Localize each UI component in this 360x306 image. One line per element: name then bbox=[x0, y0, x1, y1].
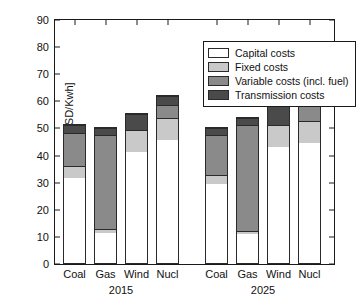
y-axis-tick-label: 20 bbox=[37, 204, 49, 215]
legend-item: Capital costs bbox=[208, 46, 349, 60]
bar-2025-nucl bbox=[298, 95, 321, 264]
bar-segment-variable bbox=[95, 135, 116, 229]
bar-2025-wind bbox=[267, 105, 290, 264]
bar-segment-capital bbox=[299, 143, 320, 263]
bar-segment-transmission bbox=[237, 118, 258, 125]
x-axis-tick-label: Coal bbox=[205, 269, 228, 280]
x-axis-group-label-2015: 2015 bbox=[109, 285, 133, 296]
x-axis-tick-label: Gas bbox=[95, 269, 115, 280]
bar-segment-transmission bbox=[64, 125, 85, 134]
legend-swatch-icon bbox=[208, 76, 229, 86]
bar-segment-capital bbox=[64, 178, 85, 263]
legend-swatch-icon bbox=[208, 62, 229, 72]
chart-legend: Capital costsFixed costsVariable costs (… bbox=[203, 41, 356, 107]
bar-segment-fixed bbox=[268, 125, 289, 147]
bar-2015-coal bbox=[63, 124, 86, 264]
bar-segment-variable bbox=[64, 133, 85, 166]
bar-segment-fixed bbox=[299, 121, 320, 142]
bar-segment-capital bbox=[237, 234, 258, 263]
x-axis-tick-label: Wind bbox=[266, 269, 291, 280]
legend-item: Transmission costs bbox=[208, 88, 349, 102]
bar-segment-transmission bbox=[206, 128, 227, 136]
x-axis-tick-label: Gas bbox=[237, 269, 257, 280]
y-axis-tick-label: 70 bbox=[37, 69, 49, 80]
x-axis-tick-label: Nucl bbox=[298, 269, 320, 280]
bar-2015-gas bbox=[94, 127, 117, 264]
bar-2015-nucl bbox=[156, 95, 179, 264]
y-axis-tick-label: 90 bbox=[37, 15, 49, 26]
bar-segment-variable bbox=[206, 135, 227, 174]
bar-segment-transmission bbox=[268, 106, 289, 125]
y-axis-tick-label: 10 bbox=[37, 231, 49, 242]
y-axis-tick-label: 30 bbox=[37, 177, 49, 188]
bar-segment-capital bbox=[268, 147, 289, 263]
x-axis-tick-label: Wind bbox=[124, 269, 149, 280]
legend-item-label: Transmission costs bbox=[235, 90, 324, 101]
x-axis-tick-label: Nucl bbox=[156, 269, 178, 280]
bar-segment-fixed bbox=[126, 130, 147, 152]
bar-segment-transmission bbox=[126, 114, 147, 131]
bar-segment-transmission bbox=[157, 96, 178, 106]
bar-segment-capital bbox=[95, 233, 116, 263]
legend-swatch-icon bbox=[208, 90, 229, 100]
bar-segment-capital bbox=[206, 184, 227, 263]
chart-figure: 0102030405060708090 Cost [millions USD/K… bbox=[0, 0, 360, 306]
y-axis-tick-label: 80 bbox=[37, 42, 49, 53]
x-axis-group-label-2025: 2025 bbox=[251, 285, 275, 296]
plot-area: 0102030405060708090 Cost [millions USD/K… bbox=[54, 19, 335, 265]
y-axis-tick-label: 0 bbox=[43, 259, 49, 270]
bar-segment-transmission bbox=[95, 128, 116, 135]
legend-item-label: Capital costs bbox=[235, 48, 295, 59]
bar-segment-fixed bbox=[157, 118, 178, 140]
legend-swatch-icon bbox=[208, 48, 229, 58]
legend-item: Variable costs (incl. fuel) bbox=[208, 74, 349, 88]
bar-segment-capital bbox=[157, 140, 178, 263]
bar-segment-fixed bbox=[206, 175, 227, 185]
bar-2015-wind bbox=[125, 113, 148, 264]
bar-segment-capital bbox=[126, 152, 147, 263]
legend-item-label: Fixed costs bbox=[235, 62, 288, 73]
legend-item: Fixed costs bbox=[208, 60, 349, 74]
bar-segment-fixed bbox=[64, 166, 85, 178]
y-axis-tick-label: 50 bbox=[37, 123, 49, 134]
legend-item-label: Variable costs (incl. fuel) bbox=[235, 76, 349, 87]
y-axis-tick-label: 40 bbox=[37, 150, 49, 161]
y-axis-tick-label: 60 bbox=[37, 96, 49, 107]
bar-2025-coal bbox=[205, 127, 228, 264]
bar-2025-gas bbox=[236, 117, 259, 264]
bar-segment-variable bbox=[157, 105, 178, 118]
bar-segment-variable bbox=[237, 125, 258, 231]
x-axis-tick-label: Coal bbox=[63, 269, 86, 280]
